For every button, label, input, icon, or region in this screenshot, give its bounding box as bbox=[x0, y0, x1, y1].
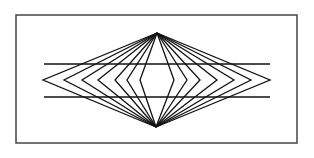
illusion-diagram bbox=[0, 0, 314, 158]
ray-line bbox=[82, 33, 157, 127]
radiating-lines bbox=[43, 33, 270, 127]
parallel-horizontal-lines bbox=[44, 64, 270, 97]
ray-line bbox=[156, 33, 234, 127]
ray-line bbox=[156, 33, 270, 127]
ray-line bbox=[156, 33, 187, 127]
